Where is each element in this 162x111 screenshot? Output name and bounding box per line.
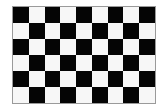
dark-square	[45, 71, 61, 87]
dark-square	[76, 71, 92, 87]
light-square	[123, 7, 139, 23]
dark-square	[76, 7, 92, 23]
light-square	[92, 7, 108, 23]
light-square	[13, 23, 29, 39]
dark-square	[139, 7, 155, 23]
light-square	[108, 55, 124, 71]
dark-square	[13, 71, 29, 87]
dark-square	[13, 39, 29, 55]
dark-square	[123, 23, 139, 39]
light-square	[108, 23, 124, 39]
dark-square	[76, 39, 92, 55]
checkerboard	[13, 7, 155, 103]
dark-square	[108, 39, 124, 55]
light-square	[29, 7, 45, 23]
light-square	[139, 87, 155, 103]
light-square	[139, 55, 155, 71]
light-square	[13, 55, 29, 71]
light-square	[123, 71, 139, 87]
dark-square	[123, 55, 139, 71]
light-square	[139, 23, 155, 39]
light-square	[76, 87, 92, 103]
light-square	[13, 87, 29, 103]
dark-square	[29, 23, 45, 39]
dark-square	[60, 87, 76, 103]
dark-square	[108, 7, 124, 23]
dark-square	[92, 23, 108, 39]
dark-square	[45, 7, 61, 23]
light-square	[45, 23, 61, 39]
light-square	[92, 39, 108, 55]
dark-square	[45, 39, 61, 55]
light-square	[60, 39, 76, 55]
light-square	[29, 39, 45, 55]
light-square	[92, 71, 108, 87]
light-square	[76, 23, 92, 39]
light-square	[60, 71, 76, 87]
dark-square	[92, 87, 108, 103]
light-square	[60, 7, 76, 23]
light-square	[45, 55, 61, 71]
dark-square	[29, 87, 45, 103]
light-square	[29, 71, 45, 87]
light-square	[76, 55, 92, 71]
light-square	[45, 87, 61, 103]
dark-square	[13, 7, 29, 23]
dark-square	[60, 55, 76, 71]
dark-square	[60, 23, 76, 39]
dark-square	[139, 71, 155, 87]
light-square	[108, 87, 124, 103]
dark-square	[29, 55, 45, 71]
light-square	[123, 39, 139, 55]
dark-square	[139, 39, 155, 55]
dark-square	[123, 87, 139, 103]
dark-square	[108, 71, 124, 87]
dark-square	[92, 55, 108, 71]
